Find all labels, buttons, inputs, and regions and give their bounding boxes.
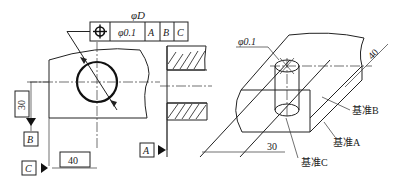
hatch-pattern (168, 51, 206, 119)
datum-a-label: A (142, 145, 150, 156)
section-view: A (140, 46, 212, 157)
datum-ref-c: C (177, 27, 184, 38)
dim-40-diag: 40 (366, 47, 381, 62)
feature-control-frame: φD φ0.1 A B C (90, 9, 188, 41)
zone-label: φ0.1 (238, 36, 256, 47)
size-label: φD (131, 9, 145, 21)
datum-a-note: 基准A (333, 136, 361, 148)
drawing-canvas: φD φ0.1 A B C 30 (0, 0, 400, 188)
dim-30-horiz: 30 (267, 141, 277, 152)
datum-c-label: C (25, 163, 32, 174)
block-top (241, 33, 364, 118)
datum-ref-b: B (163, 27, 169, 38)
datum-a-triangle-icon (158, 145, 166, 155)
right-view: φ0.1 40 30 基准B 基准A 基准C (200, 33, 388, 168)
dim-30: 30 (16, 100, 27, 110)
datum-ref-a: A (147, 27, 155, 38)
datum-c-triangle-icon (41, 163, 48, 173)
tolerance-value: φ0.1 (118, 27, 136, 38)
dim-40: 40 (68, 155, 78, 166)
datum-b-triangle-icon (26, 118, 36, 126)
datum-c-note: 基准C (301, 156, 328, 168)
leader-arrow-icon (80, 57, 87, 64)
datum-b-note: 基准B (352, 104, 379, 116)
leader-arrow-icon (110, 100, 117, 107)
part-outline (49, 49, 149, 118)
datum-b-label: B (27, 134, 33, 145)
